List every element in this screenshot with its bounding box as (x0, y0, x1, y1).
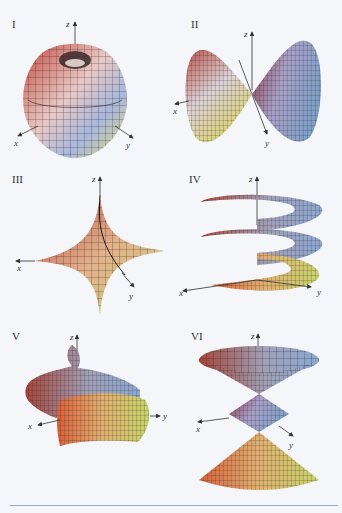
svg-text:y: y (128, 291, 133, 301)
bottom-rule (10, 505, 338, 506)
surface-double-cones: z x y (171, 330, 342, 505)
panel-v: V z x y (0, 330, 171, 505)
panel-ii: II z y x (171, 0, 342, 165)
svg-text:y: y (264, 138, 269, 148)
svg-text:z: z (91, 174, 96, 184)
svg-text:z: z (243, 29, 248, 39)
panel-vi: VI z x y (171, 330, 342, 505)
surface-helicoid: z x y (171, 165, 342, 335)
svg-text:z: z (69, 332, 74, 342)
svg-text:x: x (16, 263, 21, 273)
svg-text:x: x (172, 106, 177, 116)
svg-text:x: x (195, 424, 200, 434)
svg-text:z: z (248, 174, 253, 184)
svg-text:z: z (250, 331, 255, 341)
svg-text:y: y (316, 287, 321, 297)
panel-iv: IV z x y (171, 165, 342, 330)
surface-astroid: z x y (0, 165, 171, 335)
svg-text:x: x (27, 421, 32, 431)
svg-text:x: x (178, 288, 183, 298)
surface-spiral-tube: z x y (0, 330, 171, 505)
panel-i: I z x y (0, 0, 171, 165)
svg-text:y: y (288, 440, 293, 450)
surface-bowtie: z y x (171, 0, 342, 165)
surface-apple-torus: z x y (0, 0, 171, 165)
svg-text:z: z (65, 19, 70, 29)
svg-text:y: y (125, 140, 130, 150)
svg-text:x: x (13, 138, 18, 148)
svg-text:y: y (162, 411, 167, 421)
panel-iii: III z x y (0, 165, 171, 330)
